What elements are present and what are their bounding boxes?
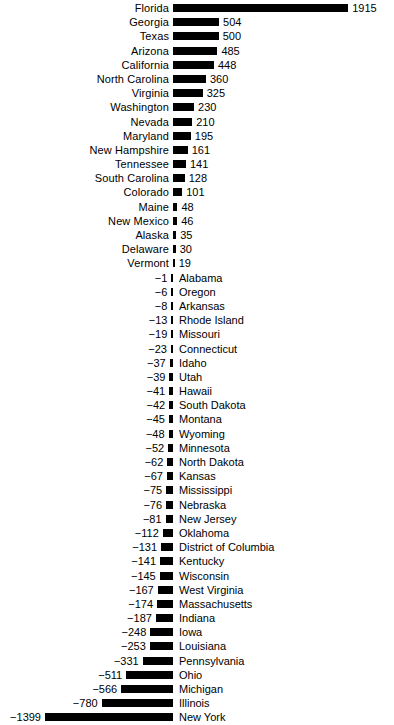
category-label: Oregon [179,285,216,299]
value-label: 161 [192,143,210,157]
chart-row: Florida1915 [0,1,394,15]
category-label: Rhode Island [179,313,244,327]
value-label: 48 [181,200,193,214]
chart-bar [173,103,194,111]
category-label: West Virginia [179,583,243,597]
chart-row: Delaware30 [0,242,394,256]
chart-bar [156,614,173,622]
chart-bar [121,685,173,693]
value-label: −141 [131,554,156,568]
chart-row: −1399New York [0,710,394,724]
chart-row: −81New Jersey [0,512,394,526]
category-label: Washington [110,100,169,114]
category-label: Kentucky [179,554,224,568]
value-label: 504 [223,15,241,29]
category-label: Oklahoma [179,526,229,540]
category-label: Vermont [127,256,169,270]
category-label: Arizona [131,44,169,58]
chart-row: South Carolina128 [0,171,394,185]
chart-bar [157,600,173,608]
chart-bar [168,444,173,452]
value-label: 128 [189,171,207,185]
category-label: Virginia [132,86,169,100]
chart-row: −41Hawaii [0,384,394,398]
category-label: District of Columbia [179,540,274,554]
chart-row: Alaska35 [0,228,394,242]
chart-row: −1Alabama [0,271,394,285]
chart-bar [173,89,203,97]
chart-row: Nevada210 [0,115,394,129]
category-label: Colorado [124,185,169,199]
chart-row: −52Minnesota [0,441,394,455]
chart-row: Virginia325 [0,86,394,100]
chart-bar [173,174,185,182]
chart-bar [143,657,173,665]
chart-bar [169,401,173,409]
chart-caption [0,639,394,651]
value-label: 210 [196,115,214,129]
value-label: −131 [132,540,157,554]
chart-bar [173,4,348,12]
chart-row: −141Kentucky [0,554,394,568]
chart-row: −76Nebraska [0,498,394,512]
category-label: Nevada [130,115,169,129]
chart-bar [173,245,176,253]
category-label: Utah [179,370,202,384]
category-label: Idaho [179,356,207,370]
category-label: Kansas [179,469,216,483]
chart-bar [171,274,173,282]
category-label: Montana [179,412,222,426]
value-label: −1 [155,271,168,285]
chart-bar [173,160,186,168]
chart-bar [171,302,173,310]
category-label: Maine [139,200,169,214]
value-label: −76 [143,498,162,512]
chart-row: Georgia504 [0,15,394,29]
category-label: Florida [135,1,169,15]
chart-row: −112Oklahoma [0,526,394,540]
chart-row: −67Kansas [0,469,394,483]
chart-row: −23Connecticut [0,342,394,356]
category-label: Alaska [135,228,169,242]
value-label: 485 [221,44,239,58]
chart-bar [173,61,214,69]
value-label: −81 [143,512,162,526]
chart-row: −145Wisconsin [0,569,394,583]
value-label: 325 [207,86,225,100]
value-label: 46 [181,214,193,228]
value-label: −52 [146,441,165,455]
chart-row: −331Pennsylvania [0,654,394,668]
chart-bar [173,47,217,55]
value-label: 230 [198,100,216,114]
category-label: Hawaii [179,384,212,398]
chart-bar [173,118,192,126]
chart-row: −62North Dakota [0,455,394,469]
chart-row: −248Iowa [0,625,394,639]
category-label: New Hampshire [89,143,169,157]
chart-row: −511Ohio [0,668,394,682]
category-label: Wyoming [179,427,225,441]
value-label: −13 [149,313,168,327]
value-label: −6 [155,285,168,299]
chart-bar [169,373,173,381]
chart-bar [126,671,173,679]
chart-row: −39Utah [0,370,394,384]
value-label: 35 [180,228,192,242]
value-label: −187 [127,611,152,625]
category-label: Pennsylvania [179,654,244,668]
chart-row: −45Montana [0,412,394,426]
chart-row: Arizona485 [0,44,394,58]
chart-row: −6Oregon [0,285,394,299]
value-label: 1915 [352,1,376,15]
category-label: Missouri [179,327,220,341]
value-label: 448 [218,58,236,72]
category-label: Tennessee [115,157,169,171]
chart-bar [169,415,173,423]
chart-bar [173,203,177,211]
category-label: South Carolina [95,171,169,185]
chart-row: −8Arkansas [0,299,394,313]
chart-row: Texas500 [0,29,394,43]
category-label: California [122,58,169,72]
chart-row: Maryland195 [0,129,394,143]
chart-bar [173,132,191,140]
